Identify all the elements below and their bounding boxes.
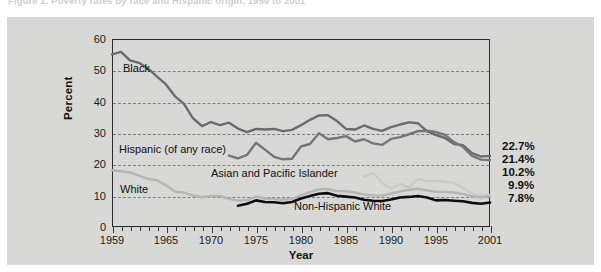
x-axis-tick-mark (419, 226, 420, 231)
x-axis-tick-mark (266, 226, 267, 231)
x-axis-tick-label: 1975 (244, 234, 268, 246)
x-axis-tick-mark (446, 226, 447, 231)
x-axis-tick-mark (383, 226, 384, 231)
x-axis-tick-mark (482, 226, 483, 231)
x-axis-tick-label: 1995 (424, 234, 448, 246)
x-axis-tick-label: 1959 (100, 234, 124, 246)
gridline (113, 103, 489, 104)
x-axis-tick-mark (131, 226, 132, 231)
x-axis-tick-mark (122, 226, 123, 231)
gridline (113, 197, 489, 198)
x-axis-tick-mark (293, 226, 294, 231)
x-axis-tick-mark (311, 226, 312, 231)
x-axis-tick-mark (275, 226, 276, 231)
x-axis-tick-mark (437, 226, 438, 233)
x-axis-label: Year (289, 249, 313, 261)
series-inline-label: Hispanic (of any race) (119, 143, 226, 155)
x-axis-tick-mark (320, 226, 321, 231)
x-axis-tick-mark (473, 226, 474, 231)
y-axis-tick-label: 60 (66, 33, 106, 45)
x-axis-tick-mark (410, 226, 411, 231)
series-inline-label: Non-Hispanic White (294, 200, 391, 212)
x-axis-tick-mark (158, 226, 159, 231)
x-axis-tick-mark (194, 226, 195, 231)
x-axis-tick-mark (176, 226, 177, 231)
x-axis-tick-mark (221, 226, 222, 231)
x-axis-tick-mark (329, 226, 330, 231)
x-axis-tick-mark (302, 226, 303, 233)
x-axis-tick-label: 1970 (199, 234, 223, 246)
y-axis-tick-label: 10 (66, 190, 106, 202)
x-axis-tick-label: 1965 (154, 234, 178, 246)
x-axis-tick-mark (401, 226, 402, 231)
x-axis-tick-mark (464, 226, 465, 231)
y-axis-tick-label: 50 (66, 64, 106, 76)
series-end-value-label: 10.2% (502, 166, 535, 178)
x-axis-tick-mark (491, 226, 492, 233)
series-inline-label: Black (123, 62, 150, 74)
x-axis-tick-mark (347, 226, 348, 233)
series-end-value-label: 21.4% (502, 153, 535, 165)
x-axis-tick-mark (167, 226, 168, 233)
x-axis-tick-mark (455, 226, 456, 231)
x-axis-tick-label: 2001 (478, 234, 502, 246)
x-axis-tick-mark (185, 226, 186, 231)
gridline (113, 134, 489, 135)
figure-caption: Figure 1. Poverty rates by race and Hisp… (8, 0, 568, 7)
x-axis-tick-mark (239, 226, 240, 231)
plot-area (112, 39, 490, 227)
x-axis-tick-mark (374, 226, 375, 231)
x-axis-tick-mark (140, 226, 141, 231)
x-axis-tick-mark (149, 226, 150, 231)
figure-root: Figure 1. Poverty rates by race and Hisp… (0, 0, 601, 272)
x-axis-tick-mark (356, 226, 357, 231)
y-axis-tick-label: 30 (66, 127, 106, 139)
x-axis-tick-mark (212, 226, 213, 233)
x-axis-tick-mark (284, 226, 285, 231)
x-axis-tick-label: 1985 (334, 234, 358, 246)
x-axis-tick-mark (248, 226, 249, 231)
x-axis-tick-mark (203, 226, 204, 231)
series-end-value-label: 7.8% (508, 192, 534, 204)
y-axis-tick-label: 40 (66, 96, 106, 108)
series-end-value-label: 22.7% (502, 140, 535, 152)
x-axis-tick-mark (113, 226, 114, 233)
y-axis-tick-label: 20 (66, 158, 106, 170)
x-axis-tick-label: 1980 (289, 234, 313, 246)
x-axis-tick-mark (428, 226, 429, 231)
y-axis-tick-label: 0 (66, 221, 106, 233)
series-end-value-label: 9.9% (508, 179, 534, 191)
x-axis-tick-mark (257, 226, 258, 233)
x-axis-tick-mark (392, 226, 393, 233)
series-inline-label: Asian and Pacific Islander (211, 167, 338, 179)
x-axis-tick-mark (230, 226, 231, 231)
x-axis-tick-label: 1990 (379, 234, 403, 246)
x-axis-tick-mark (365, 226, 366, 231)
x-axis-tick-mark (338, 226, 339, 231)
gridline (113, 71, 489, 72)
series-inline-label: White (120, 183, 148, 195)
